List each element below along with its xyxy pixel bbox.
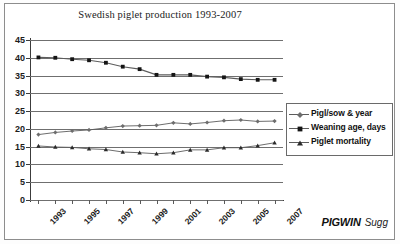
x-axis-tick-mark: [38, 200, 39, 204]
data-point-marker: [104, 126, 108, 130]
series-3: [36, 141, 277, 156]
y-axis-tick-label: 0: [3, 196, 25, 205]
x-axis-tick-mark: [207, 200, 208, 204]
brand-mark: PIGWINSugg: [322, 212, 389, 230]
triangle-marker-icon: [289, 137, 309, 148]
data-point-marker: [256, 119, 260, 123]
x-axis-tick-mark: [258, 200, 259, 204]
data-point-marker: [121, 65, 125, 69]
data-point-marker: [273, 78, 277, 82]
x-axis-tick-mark: [190, 200, 191, 204]
brand-primary: PIGWIN: [322, 216, 361, 228]
data-point-marker: [171, 121, 175, 125]
x-axis-tick-mark: [72, 200, 73, 204]
legend-item-piglet-mortality[interactable]: Piglet mortality: [289, 137, 390, 148]
x-axis-tick-mark: [55, 200, 56, 204]
x-axis-tick-mark: [140, 200, 141, 204]
data-point-marker: [272, 119, 276, 123]
data-point-marker: [256, 78, 260, 82]
y-axis-tick-label: 35: [3, 72, 25, 81]
data-point-marker: [53, 56, 57, 60]
series-1: [36, 118, 276, 137]
legend-item-weaning-age-days[interactable]: Weaning age, days: [289, 123, 390, 134]
square-marker-icon: [289, 123, 309, 134]
data-point-marker: [239, 118, 243, 122]
legend-label: Weaning age, days: [311, 123, 386, 133]
brand-secondary: Sugg: [365, 217, 388, 228]
legend-label: Piglet mortality: [311, 137, 371, 147]
data-point-marker: [239, 77, 243, 81]
data-point-marker: [138, 124, 142, 128]
x-axis-tick-mark: [123, 200, 124, 204]
data-point-marker: [87, 128, 91, 132]
data-point-marker: [222, 119, 226, 123]
data-point-marker: [53, 130, 57, 134]
chart-figure: Swedish piglet production 1993-2007 4540…: [0, 0, 400, 244]
data-point-marker: [70, 57, 74, 61]
data-point-marker: [70, 129, 74, 133]
y-axis-tick-label: 15: [3, 143, 25, 152]
x-axis-tick-mark: [157, 200, 158, 204]
x-axis-tick-mark: [89, 200, 90, 204]
x-axis-tick-mark: [106, 200, 107, 204]
chart-title: Swedish piglet production 1993-2007: [0, 9, 320, 20]
data-point-marker: [188, 73, 192, 77]
legend: Pigl/sow & year Weaning age, days Piglet…: [286, 103, 393, 156]
y-axis-tick-mark: [26, 200, 30, 201]
y-axis-tick-label: 20: [3, 125, 25, 134]
y-axis-tick-label: 45: [3, 36, 25, 45]
series-layer: [30, 40, 283, 200]
data-point-marker: [87, 58, 91, 62]
y-axis-tick-label: 25: [3, 107, 25, 116]
x-axis-tick-mark: [173, 200, 174, 204]
diamond-marker-icon: [289, 109, 309, 120]
series-2: [37, 56, 277, 82]
x-axis-tick-mark: [275, 200, 276, 204]
data-point-marker: [121, 124, 125, 128]
data-point-marker: [155, 73, 159, 77]
data-point-marker: [138, 67, 142, 71]
y-axis-tick-label: 5: [3, 178, 25, 187]
data-point-marker: [37, 56, 41, 60]
y-axis-tick-label: 40: [3, 54, 25, 63]
y-axis-tick-label: 10: [3, 160, 25, 169]
data-point-marker: [272, 141, 276, 145]
data-point-marker: [205, 75, 209, 79]
data-point-marker: [205, 120, 209, 124]
data-point-marker: [188, 122, 192, 126]
x-axis-tick-mark: [241, 200, 242, 204]
data-point-marker: [154, 123, 158, 127]
data-point-marker: [104, 61, 108, 65]
legend-item-pigl-sow-year[interactable]: Pigl/sow & year: [289, 109, 390, 120]
data-point-marker: [36, 132, 40, 136]
legend-label: Pigl/sow & year: [311, 109, 372, 119]
data-point-marker: [222, 75, 226, 79]
data-point-marker: [171, 73, 175, 77]
y-axis-tick-label: 30: [3, 89, 25, 98]
x-axis-tick-mark: [224, 200, 225, 204]
